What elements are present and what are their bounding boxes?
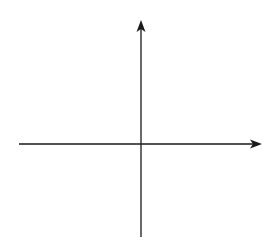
function-graph — [0, 0, 276, 246]
axes — [19, 20, 262, 237]
y-tick-bg — [119, 104, 137, 122]
